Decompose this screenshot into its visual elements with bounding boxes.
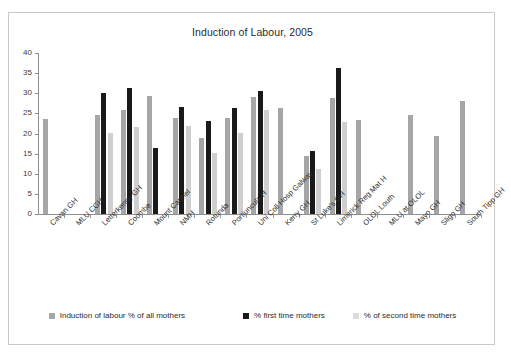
y-axis-tick-mark	[35, 134, 38, 135]
bar-induction-of-labour-of-all-mothers	[251, 97, 256, 214]
y-axis-tick-mark	[35, 73, 38, 74]
y-axis-tick: 10	[9, 174, 38, 175]
x-axis-tick-mark	[116, 215, 117, 218]
chart-figure-frame: Induction of Labour, 2005 05101520253035…	[8, 12, 495, 345]
y-axis-tick-mark	[35, 113, 38, 114]
bar-induction-of-labour-of-all-mothers	[121, 110, 126, 214]
plot-area	[39, 53, 481, 214]
y-axis-tick-label: 10	[23, 168, 32, 179]
bar-induction-of-labour-of-all-mothers	[330, 98, 335, 214]
y-axis-tick-mark	[35, 174, 38, 175]
y-axis-tick: 40	[9, 53, 38, 54]
x-axis-tick-mark	[403, 215, 404, 218]
x-axis-line	[38, 214, 481, 215]
bar-first-time-mothers	[232, 108, 237, 214]
x-axis-tick-mark	[142, 215, 143, 218]
y-axis-tick-label: 25	[23, 107, 32, 118]
legend-swatch-second-time-mothers	[353, 313, 359, 319]
bar-of-second-time-mothers	[108, 133, 113, 214]
bar-of-second-time-mothers	[264, 110, 269, 214]
x-axis-tick-mark	[325, 215, 326, 218]
y-axis-tick: 30	[9, 93, 38, 94]
y-axis-tick: 0	[9, 214, 38, 215]
bar-induction-of-labour-of-all-mothers	[43, 119, 48, 214]
y-axis-tick: 35	[9, 73, 38, 74]
bar-induction-of-labour-of-all-mothers	[147, 96, 152, 214]
bar-induction-of-labour-of-all-mothers	[199, 138, 204, 214]
bar-of-second-time-mothers	[316, 169, 321, 214]
y-axis-tick: 20	[9, 134, 38, 135]
bar-induction-of-labour-of-all-mothers	[460, 101, 465, 214]
bar-first-time-mothers	[101, 93, 106, 214]
x-axis-tick-mark	[455, 215, 456, 218]
x-axis-tick-mark	[246, 215, 247, 218]
bar-first-time-mothers	[179, 107, 184, 214]
y-axis-tick-mark	[35, 154, 38, 155]
x-axis-tick-mark	[481, 215, 482, 218]
legend-label-second-time-mothers: % of second time mothers	[364, 311, 456, 320]
y-axis-tick-mark	[35, 214, 38, 215]
y-axis-tick-label: 30	[23, 87, 32, 98]
legend-label-first-time-mothers: % first time mothers	[254, 311, 325, 320]
x-axis-tick-mark	[351, 215, 352, 218]
legend-item-first-time-mothers: % first time mothers	[243, 311, 325, 320]
x-axis-tick-mark	[64, 215, 65, 218]
bar-induction-of-labour-of-all-mothers	[434, 136, 439, 214]
bar-of-second-time-mothers	[238, 133, 243, 214]
bar-induction-of-labour-of-all-mothers	[95, 115, 100, 214]
bar-induction-of-labour-of-all-mothers	[173, 118, 178, 214]
y-axis-tick-mark	[35, 93, 38, 94]
bar-induction-of-labour-of-all-mothers	[408, 115, 413, 214]
y-axis-tick: 15	[9, 154, 38, 155]
bar-of-second-time-mothers	[134, 127, 139, 214]
y-axis-tick: 25	[9, 113, 38, 114]
bar-induction-of-labour-of-all-mothers	[278, 108, 283, 214]
x-axis-tick-mark	[429, 215, 430, 218]
legend-swatch-first-time-mothers	[243, 313, 249, 319]
legend-swatch-all-mothers	[49, 313, 55, 319]
x-axis-tick-mark	[194, 215, 195, 218]
chart-title: Induction of Labour, 2005	[9, 26, 496, 38]
bar-of-second-time-mothers	[342, 122, 347, 214]
bar-of-second-time-mothers	[212, 153, 217, 214]
y-axis-tick-label: 5	[28, 188, 32, 199]
y-axis-tick-label: 0	[28, 208, 32, 219]
legend-label-all-mothers: Induction of labour % of all mothers	[60, 311, 185, 320]
x-axis-tick-mark	[299, 215, 300, 218]
y-axis-tick-label: 15	[23, 148, 32, 159]
y-axis-tick-label: 35	[23, 67, 32, 78]
x-axis-tick-mark	[220, 215, 221, 218]
bar-first-time-mothers	[153, 148, 158, 214]
chart-legend: Induction of labour % of all mothers % f…	[9, 311, 496, 320]
bar-induction-of-labour-of-all-mothers	[356, 120, 361, 214]
legend-item-second-time-mothers: % of second time mothers	[353, 311, 456, 320]
bar-first-time-mothers	[258, 91, 263, 214]
bar-induction-of-labour-of-all-mothers	[225, 118, 230, 214]
legend-item-all-mothers: Induction of labour % of all mothers	[49, 311, 185, 320]
bar-of-second-time-mothers	[186, 126, 191, 214]
y-axis-tick-label: 40	[23, 47, 32, 58]
screenshot-page: Induction of Labour, 2005 05101520253035…	[0, 0, 511, 362]
bar-first-time-mothers	[336, 68, 341, 214]
bar-first-time-mothers	[310, 151, 315, 214]
y-axis-tick-mark	[35, 194, 38, 195]
x-axis-tick-mark	[273, 215, 274, 218]
x-axis-tick-mark	[168, 215, 169, 218]
y-axis-tick-mark	[35, 53, 38, 54]
bar-first-time-mothers	[206, 121, 211, 214]
bar-induction-of-labour-of-all-mothers	[304, 156, 309, 214]
y-axis-tick: 5	[9, 194, 38, 195]
x-axis-tick-mark	[377, 215, 378, 218]
y-axis-tick-label: 20	[23, 128, 32, 139]
bar-first-time-mothers	[127, 88, 132, 214]
x-axis-tick-mark	[90, 215, 91, 218]
